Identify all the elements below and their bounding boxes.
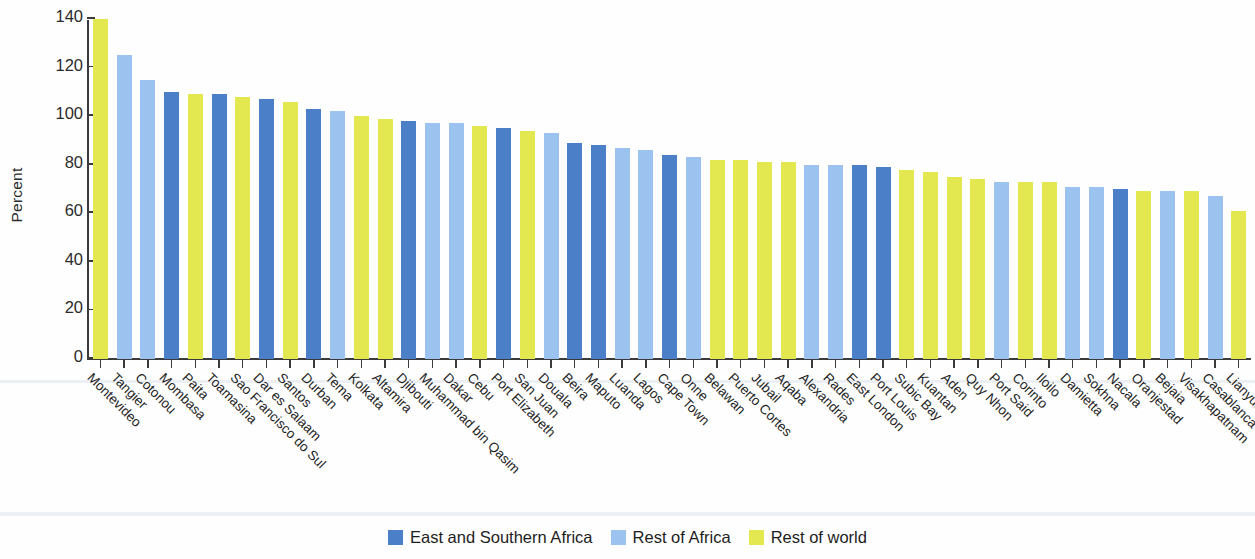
x-tick-mark xyxy=(123,360,124,368)
bar xyxy=(472,126,487,359)
x-axis-ticks xyxy=(89,360,1251,369)
bar xyxy=(330,111,345,359)
legend-item: Rest of Africa xyxy=(611,528,731,547)
y-tick-label: 120 xyxy=(55,56,83,75)
x-tick-mark xyxy=(289,360,290,368)
bar xyxy=(1113,189,1128,359)
bar xyxy=(615,148,630,359)
bar xyxy=(401,121,416,359)
y-axis-title: Percent xyxy=(2,140,32,250)
x-tick-mark xyxy=(1072,360,1073,368)
bar xyxy=(947,177,962,359)
x-tick-mark xyxy=(100,360,101,368)
bar xyxy=(1018,182,1033,359)
bar xyxy=(591,145,606,359)
x-tick-mark xyxy=(953,360,954,368)
x-tick-mark xyxy=(171,360,172,368)
bar xyxy=(93,19,108,359)
x-tick-mark xyxy=(455,360,456,368)
x-axis-labels: MontevideoTangierCotonouMombasaPaitaToam… xyxy=(87,370,1255,500)
x-tick-mark xyxy=(740,360,741,368)
bar xyxy=(781,162,796,359)
bar xyxy=(235,97,250,359)
bar xyxy=(1184,191,1199,359)
bar xyxy=(259,99,274,359)
x-tick-mark xyxy=(1001,360,1002,368)
x-tick-mark xyxy=(977,360,978,368)
y-tick-label: 20 xyxy=(65,298,83,317)
x-tick-mark xyxy=(266,360,267,368)
legend-swatch-esa xyxy=(388,530,403,545)
x-tick-mark xyxy=(147,360,148,368)
x-tick-mark xyxy=(598,360,599,368)
x-tick-mark xyxy=(503,360,504,368)
chart-legend: East and Southern AfricaRest of AfricaRe… xyxy=(0,528,1255,547)
bar xyxy=(212,94,227,359)
x-tick-mark xyxy=(1214,360,1215,368)
x-tick-mark xyxy=(384,360,385,368)
x-tick-mark xyxy=(621,360,622,368)
bar xyxy=(662,155,677,359)
bar xyxy=(994,182,1009,359)
x-tick-mark xyxy=(906,360,907,368)
bar xyxy=(1231,211,1246,359)
bar xyxy=(544,133,559,359)
bar xyxy=(283,102,298,359)
x-tick-mark xyxy=(574,360,575,368)
x-tick-mark xyxy=(313,360,314,368)
legend-item: Rest of world xyxy=(749,528,867,547)
bar xyxy=(970,179,985,359)
x-tick-mark xyxy=(693,360,694,368)
bar xyxy=(188,94,203,359)
x-tick-mark xyxy=(1119,360,1120,368)
y-tick-label: 0 xyxy=(74,347,83,366)
bar xyxy=(852,165,867,359)
bar xyxy=(804,165,819,359)
bar xyxy=(1042,182,1057,359)
y-tick-label: 80 xyxy=(65,153,83,172)
x-tick-mark xyxy=(408,360,409,368)
chart-figure: Percent 020406080100120140 MontevideoTan… xyxy=(0,0,1255,559)
y-tick-label: 140 xyxy=(55,7,83,26)
bar xyxy=(1160,191,1175,359)
x-tick-mark xyxy=(764,360,765,368)
x-tick-mark xyxy=(337,360,338,368)
bar xyxy=(1208,196,1223,359)
legend-swatch-roa xyxy=(611,530,626,545)
bar xyxy=(354,116,369,359)
bar xyxy=(923,172,938,359)
bar xyxy=(638,150,653,359)
bar xyxy=(1136,191,1151,359)
legend-swatch-row xyxy=(749,530,764,545)
x-tick-mark xyxy=(859,360,860,368)
x-tick-mark xyxy=(242,360,243,368)
x-tick-mark xyxy=(811,360,812,368)
y-tick-label: 60 xyxy=(65,201,83,220)
y-axis-title-text: Percent xyxy=(8,168,26,223)
bar xyxy=(140,80,155,359)
x-tick-mark xyxy=(195,360,196,368)
bar xyxy=(425,123,440,359)
bar xyxy=(567,143,582,359)
x-tick-mark xyxy=(1096,360,1097,368)
bar xyxy=(828,165,843,359)
x-tick-mark xyxy=(218,360,219,368)
bar xyxy=(1065,187,1080,359)
x-tick-mark xyxy=(645,360,646,368)
legend-label: East and Southern Africa xyxy=(410,528,593,547)
x-tick-mark xyxy=(1191,360,1192,368)
bar xyxy=(1089,187,1104,359)
x-tick-mark xyxy=(716,360,717,368)
bar xyxy=(876,167,891,359)
x-tick-mark xyxy=(835,360,836,368)
bar xyxy=(449,123,464,359)
x-tick-mark xyxy=(1025,360,1026,368)
bar xyxy=(164,92,179,359)
bar xyxy=(378,119,393,359)
bar xyxy=(733,160,748,359)
x-tick-mark xyxy=(882,360,883,368)
bar xyxy=(306,109,321,359)
x-tick-mark xyxy=(930,360,931,368)
x-tick-mark xyxy=(550,360,551,368)
x-tick-mark xyxy=(1048,360,1049,368)
